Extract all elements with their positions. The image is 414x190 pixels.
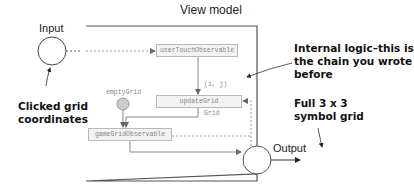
- clicked-grid-annotation: Clicked grid coordinates: [18, 100, 88, 126]
- output-circle: [243, 146, 271, 174]
- internal-logic-annotation: Internal logic–this is the chain you wro…: [294, 42, 414, 81]
- full-grid-annotation: Full 3 x 3 symbol grid: [294, 97, 364, 123]
- update-grid-label: updateGrid: [179, 98, 218, 105]
- edge-label-ij: (i, j): [204, 81, 227, 88]
- view-model-title: View model: [180, 3, 242, 17]
- game-grid-observable-label: gameGridObservable: [95, 131, 165, 138]
- empty-grid-dot: [117, 98, 129, 110]
- output-label: Output: [273, 142, 306, 154]
- update-grid-node: updateGrid: [156, 95, 242, 108]
- input-label: Input: [39, 22, 63, 34]
- edge-label-grid: Grid: [204, 110, 220, 117]
- game-grid-observable-node: gameGridObservable: [88, 128, 172, 141]
- user-touch-observable-node: userTouchObservable: [156, 44, 238, 57]
- empty-grid-label: emptyGrid: [106, 89, 141, 96]
- input-circle: [38, 37, 66, 65]
- user-touch-observable-label: userTouchObservable: [160, 47, 234, 54]
